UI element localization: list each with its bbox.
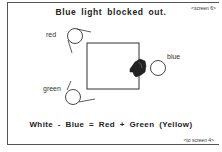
blue-lamp bbox=[151, 61, 166, 76]
red-lamp-circle bbox=[68, 29, 83, 44]
green-beam-lower bbox=[79, 99, 95, 102]
next-screen-link[interactable]: <to screen 4> bbox=[183, 137, 214, 143]
red-lamp-label: red bbox=[46, 31, 56, 38]
color-equation: White - Blue = Red + Green (Yellow) bbox=[0, 120, 222, 129]
hand-icon bbox=[130, 59, 146, 77]
blue-lamp-label: blue bbox=[167, 53, 180, 60]
green-lamp-circle bbox=[66, 90, 81, 105]
projection-screen bbox=[87, 43, 139, 89]
red-beam-upper bbox=[77, 29, 91, 32]
light-diagram bbox=[0, 0, 222, 152]
green-lamp bbox=[66, 81, 96, 105]
green-lamp-label: green bbox=[43, 85, 61, 92]
green-beam-upper bbox=[67, 81, 71, 90]
blue-lamp-circle bbox=[151, 61, 166, 76]
